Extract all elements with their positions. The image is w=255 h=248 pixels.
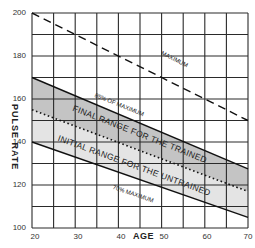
x-tick-60: 60 <box>197 232 217 241</box>
x-tick-20: 20 <box>25 232 45 241</box>
x-axis-label: AGE <box>131 231 156 241</box>
y-tick-200: 200 <box>4 8 26 17</box>
y-tick-100: 100 <box>4 223 26 232</box>
y-axis-label: PULSE RATE <box>10 104 20 170</box>
y-tick-120: 120 <box>4 180 26 189</box>
x-tick-40: 40 <box>111 232 131 241</box>
y-tick-180: 180 <box>4 51 26 60</box>
y-tick-160: 160 <box>4 94 26 103</box>
x-tick-30: 30 <box>68 232 88 241</box>
x-tick-70: 70 <box>238 232 255 241</box>
x-tick-50: 50 <box>154 232 174 241</box>
